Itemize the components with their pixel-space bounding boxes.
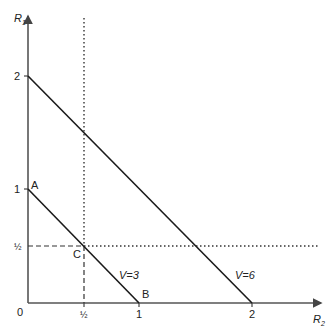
- x-tick-1: 1: [136, 308, 142, 320]
- point-label-c: C: [73, 248, 81, 260]
- x-axis-label: R2: [313, 313, 325, 327]
- origin-label: 0: [17, 306, 23, 318]
- y-axis-label: R1: [14, 12, 26, 26]
- point-label-b: B: [142, 288, 149, 300]
- diagram-canvas: R1 R2 0 2 1 ½ ½ 1 2 A B C V=3 V=6: [0, 0, 335, 331]
- y-tick-2: 2: [14, 70, 20, 82]
- line-label-v3: V=3: [119, 269, 140, 281]
- line-label-v6: V=6: [235, 269, 256, 281]
- x-tick-2: 2: [249, 308, 255, 320]
- y-tick-1: 1: [14, 183, 20, 195]
- x-tick-half: ½: [80, 310, 88, 320]
- line-v6: [28, 76, 252, 303]
- point-label-a: A: [31, 179, 39, 191]
- y-tick-half: ½: [14, 242, 22, 252]
- axes: [28, 16, 321, 303]
